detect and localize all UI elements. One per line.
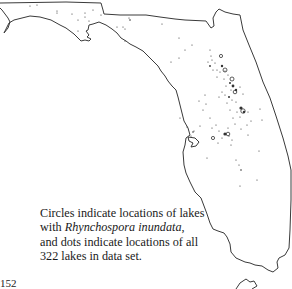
keys-island-outline: [236, 279, 257, 289]
caption-line-2: with Rhynchospora inundata,: [40, 220, 230, 234]
page-number: 152: [0, 277, 17, 289]
map-caption: Circles indicate locations of lakes with…: [40, 206, 230, 264]
caption-line-4: 322 lakes in data set.: [40, 249, 230, 263]
caption-line-3: and dots indicate locations of all: [40, 235, 230, 249]
caption-line-1: Circles indicate locations of lakes: [40, 206, 230, 220]
species-name: Rhynchospora inundata: [65, 220, 182, 234]
tampa-bay-outline: [188, 137, 199, 147]
lake-dots: [29, 4, 262, 186]
